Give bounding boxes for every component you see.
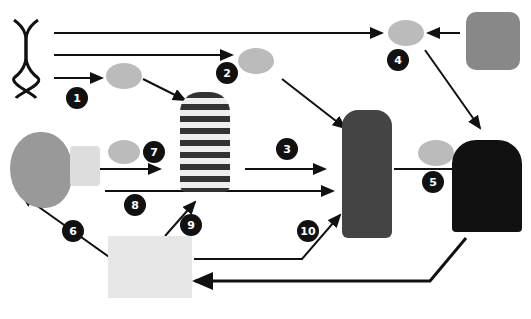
dna-icon xyxy=(10,18,42,100)
badge-6: 6 xyxy=(62,220,84,242)
badge-5: 5 xyxy=(422,171,444,193)
badge-4: 4 xyxy=(387,49,409,71)
child-icon xyxy=(180,92,230,192)
brain-icon xyxy=(106,63,142,89)
fetus-icon xyxy=(10,132,72,208)
people-icon xyxy=(466,12,520,70)
badge-3: 3 xyxy=(276,138,298,160)
badge-10: 10 xyxy=(297,220,319,242)
badge-1: 1 xyxy=(66,87,88,109)
badge-9: 9 xyxy=(180,214,202,236)
bottles-icon xyxy=(70,146,100,186)
badge-8: 8 xyxy=(124,194,146,216)
brain-icon xyxy=(238,48,274,74)
brain-icon xyxy=(418,140,454,166)
badge-2: 2 xyxy=(216,62,238,84)
adolescent-icon xyxy=(342,110,392,238)
brain-icon xyxy=(108,140,140,164)
badge-7: 7 xyxy=(143,141,165,163)
house-icon xyxy=(108,236,192,298)
brain-icon xyxy=(388,20,424,46)
adult-drinking-icon xyxy=(452,140,522,232)
